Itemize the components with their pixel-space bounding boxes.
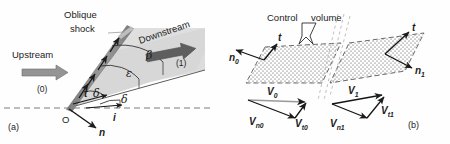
label-volume: volume [311, 12, 342, 23]
label-origin: O [62, 114, 69, 125]
svg-text:Vt0: Vt0 [295, 118, 308, 131]
panel-b-label: (b) [408, 120, 419, 130]
svg-text:n0: n0 [229, 52, 239, 65]
svg-text:V0: V0 [267, 86, 278, 99]
vector-label-Vt1: Vt1 [381, 105, 394, 118]
angle-label-delta-upper: δ [93, 87, 100, 100]
angle-arc-delta-lower [100, 100, 120, 104]
label-upstream-state: (0) [37, 84, 48, 94]
label-shock: shock [70, 23, 95, 34]
vector-label-Vn0: Vn0 [249, 116, 264, 129]
n0-sub: 0 [235, 58, 239, 65]
control-volume-pointer [299, 23, 316, 44]
vector-label-Vt0: Vt0 [295, 118, 308, 131]
figure-canvas: Oblique shock Upstream (0) Downstream (1… [0, 0, 450, 144]
incident-vector-label-a: i [113, 112, 116, 123]
vector-label-Vn1: Vn1 [330, 118, 345, 131]
downstream-velocity-triangle [332, 95, 384, 118]
vector-label-V0: V0 [267, 86, 278, 99]
panel-a-label: (a) [8, 122, 19, 132]
figure-svg: Oblique shock Upstream (0) Downstream (1… [0, 0, 450, 144]
svg-text:Vn1: Vn1 [330, 118, 345, 131]
panel-a: Oblique shock Upstream (0) Downstream (1… [4, 9, 210, 138]
angle-label-beta: β [145, 49, 152, 62]
normal-vector-label-a: n [99, 127, 105, 138]
normal-vector-n [69, 109, 96, 128]
svg-text:Vt1: Vt1 [381, 105, 394, 118]
normal-vector-n0 [236, 50, 264, 60]
upstream-block-arrow [22, 65, 68, 80]
vector-label-t-left: t [278, 32, 282, 43]
angle-label-delta-lower: δ [121, 93, 128, 106]
panel-b: Control volume n0 t t n1 V0 Vn0 Vt0 V1 V… [229, 12, 425, 131]
svg-text:Vn0: Vn0 [249, 116, 264, 129]
vector-label-n0: n0 [229, 52, 239, 65]
angle-label-epsilon: ε [126, 67, 132, 80]
label-control: Control [267, 12, 298, 23]
label-downstream-state: (1) [176, 58, 187, 68]
svg-text:V1: V1 [348, 85, 359, 98]
vector-label-t-right: t [412, 22, 416, 33]
label-upstream: Upstream [12, 49, 53, 60]
label-oblique: Oblique [64, 9, 97, 20]
upstream-velocity-triangle [248, 100, 306, 118]
svg-text:n1: n1 [415, 65, 425, 78]
vector-label-n1: n1 [415, 65, 425, 78]
vector-label-V1: V1 [348, 85, 359, 98]
n1-sub: 1 [421, 71, 425, 78]
